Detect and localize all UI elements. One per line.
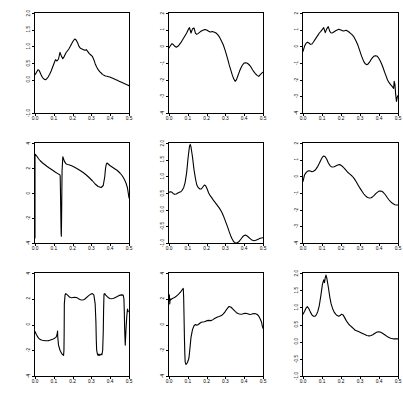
panel-3-curve-svg [303,13,398,113]
panel-5-xtick-label: 0.4 [241,247,248,252]
panel-4-ytick [32,143,35,144]
panel-8-ytick [166,299,169,300]
panel-3-xtick-label: 0.2 [338,117,345,122]
panel-5-xtick-label: 0.5 [260,247,267,252]
panel-7-curve-svg [35,273,129,376]
panel-5-xtick-label: 0.3 [222,247,229,252]
panel-7-xtick-label: 0.0 [32,380,39,385]
panel-2-ytick [166,63,169,64]
panel-9-xtick-label: 0.1 [319,380,326,385]
panel-3-ytick [300,13,303,14]
panel-4-xtick-label: 0.4 [107,247,114,252]
panel-9-line-series [303,275,398,339]
panel-6-xtick-label: 0.5 [395,247,402,252]
panel-9-xtick-label: 0.2 [338,380,345,385]
panel-7: -4-20240.00.10.20.30.40.5 [0,268,134,399]
panel-6-line-series [303,156,398,205]
panel-7-xtick-label: 0.2 [69,380,76,385]
panel-2-curve-svg [169,13,263,113]
panel-9-ytick [300,342,303,343]
panel-4-ytick [32,168,35,169]
panel-6-xtick-label: 0.1 [319,247,326,252]
panel-7-ytick [32,273,35,274]
panel-2-xtick-label: 0.1 [184,117,191,122]
panel-9-ytick [300,273,303,274]
panel-7-xtick-label: 0.4 [107,380,114,385]
panel-9-xtick-label: 0.5 [395,380,402,385]
panel-2-ytick [166,46,169,47]
panel-2-xtick-label: 0.0 [166,117,173,122]
panel-7-xtick-label: 0.3 [88,380,95,385]
panel-2-plot-area: -4-3-2-10120.00.10.20.30.40.5 [168,12,264,114]
panel-4-xtick-label: 0.0 [32,247,39,252]
panel-2-xtick-label: 0.3 [222,117,229,122]
panel-3-ytick [300,63,303,64]
panel-1-ytick [32,13,35,14]
panel-2-ytick [166,96,169,97]
panel-5-xtick-label: 0.1 [184,247,191,252]
panel-1-xtick-label: 0.0 [32,117,39,122]
panel-9-ytick [300,359,303,360]
panel-9-ytick [300,325,303,326]
panel-3-plot-area: -4-3-2-10120.00.10.20.30.40.5 [302,12,399,114]
panel-2-xtick-label: 0.2 [203,117,210,122]
panel-3-ytick [300,96,303,97]
panel-7-ytick [32,325,35,326]
panel-6-ytick [300,160,303,161]
panel-6-xtick-label: 0.2 [338,247,345,252]
panel-3-xtick-label: 0.4 [376,117,383,122]
panel-9-xtick-label: 0.3 [357,380,364,385]
panel-7-ytick [32,350,35,351]
panel-8-ytick [166,273,169,274]
panel-2: -4-3-2-10120.00.10.20.30.40.5 [134,8,268,136]
panel-5-ytick [166,226,169,227]
panel-2-xtick-label: 0.5 [260,117,267,122]
panel-9-plot-area: -1.0-0.50.00.51.01.52.00.00.10.20.30.40.… [302,272,399,377]
panel-4-ytick [32,193,35,194]
panel-5-ytick [166,193,169,194]
panel-3-xtick-label: 0.3 [357,117,364,122]
panel-6-xtick-label: 0.0 [300,247,307,252]
panel-8-xtick-label: 0.4 [241,380,248,385]
panel-5-xtick-label: 0.2 [203,247,210,252]
panel-1-xtick-label: 0.4 [107,117,114,122]
panel-4: -4-20240.00.10.20.30.40.5 [0,138,134,266]
panel-4-xtick-label: 0.3 [88,247,95,252]
panel-5-curve-svg [169,143,263,243]
panel-9-xtick-label: 0.4 [376,380,383,385]
panel-1-xtick-label: 0.1 [50,117,57,122]
panel-8-xtick-label: 0.5 [260,380,267,385]
panel-6-ytick [300,176,303,177]
panel-9-xtick-label: 0.0 [300,380,307,385]
panel-3-xtick-label: 0.5 [395,117,402,122]
panel-5-ytick [166,160,169,161]
panel-9-ytick [300,307,303,308]
panel-7-plot-area: -4-20240.00.10.20.30.40.5 [34,272,130,377]
panel-6-xtick-label: 0.4 [376,247,383,252]
panel-2-ytick [166,80,169,81]
panel-7-xtick-label: 0.1 [50,380,57,385]
panel-2-line-series [169,28,263,82]
panel-4-xtick-label: 0.1 [50,247,57,252]
panel-6-ytick [300,210,303,211]
panel-1-plot-area: -1.00.00.51.01.52.00.00.10.20.30.40.5 [34,12,130,114]
panel-6-ytick [300,193,303,194]
panel-9: -1.0-0.50.00.51.01.52.00.00.10.20.30.40.… [268,268,403,399]
panel-3: -4-3-2-10120.00.10.20.30.40.5 [268,8,403,136]
panel-4-line-series [35,154,129,238]
panel-1-curve-svg [35,13,129,113]
panel-6: -4-3-2-10120.00.10.20.30.40.5 [268,138,403,266]
panel-3-line-series [303,27,398,102]
panel-8: -4-20240.00.10.20.30.40.5 [134,268,268,399]
panel-5-xtick-label: 0.0 [166,247,173,252]
panel-6-ytick [300,226,303,227]
panel-3-ytick [300,30,303,31]
panel-7-line-series [35,294,128,356]
panel-1: -1.00.00.51.01.52.00.00.10.20.30.40.5 [0,8,134,136]
panel-9-curve-svg [303,273,398,376]
panel-6-plot-area: -4-3-2-10120.00.10.20.30.40.5 [302,142,399,244]
panel-8-curve-svg [169,273,263,376]
panel-8-xtick-label: 0.2 [203,380,210,385]
panel-1-xtick-label: 0.5 [126,117,133,122]
panel-1-line-series [35,39,129,86]
